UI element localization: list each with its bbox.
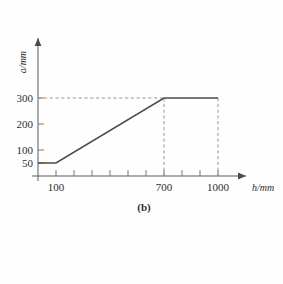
axes-group xyxy=(32,38,246,181)
y-tick-label-50: 50 xyxy=(22,157,34,169)
data-line-a-of-h xyxy=(38,98,218,163)
y-tick-label-100: 100 xyxy=(17,144,34,156)
x-tick-label-100: 100 xyxy=(48,181,65,193)
y-tick-label-300: 300 xyxy=(17,92,34,104)
y-tick-labels: 300 200 100 50 xyxy=(17,92,34,169)
x-axis-title: h/mm xyxy=(252,182,274,193)
y-tick-label-200: 200 xyxy=(17,118,34,130)
y-axis-title: a/mm xyxy=(17,51,28,73)
chart-plot: 300 200 100 50 100 700 1000 h/mm a/mm (b… xyxy=(0,0,283,284)
data-series-group xyxy=(38,98,218,163)
x-axis-ticks xyxy=(56,170,218,176)
y-axis-arrowhead xyxy=(35,38,42,46)
figure-container: 300 200 100 50 100 700 1000 h/mm a/mm (b… xyxy=(0,0,283,284)
x-tick-label-700: 700 xyxy=(156,181,173,193)
y-axis-ticks xyxy=(38,98,44,163)
x-axis-arrowhead xyxy=(238,173,246,180)
guide-lines-group xyxy=(38,98,218,176)
x-tick-labels: 100 700 1000 xyxy=(48,181,230,193)
x-tick-label-1000: 1000 xyxy=(207,181,230,193)
figure-caption: (b) xyxy=(137,201,151,214)
